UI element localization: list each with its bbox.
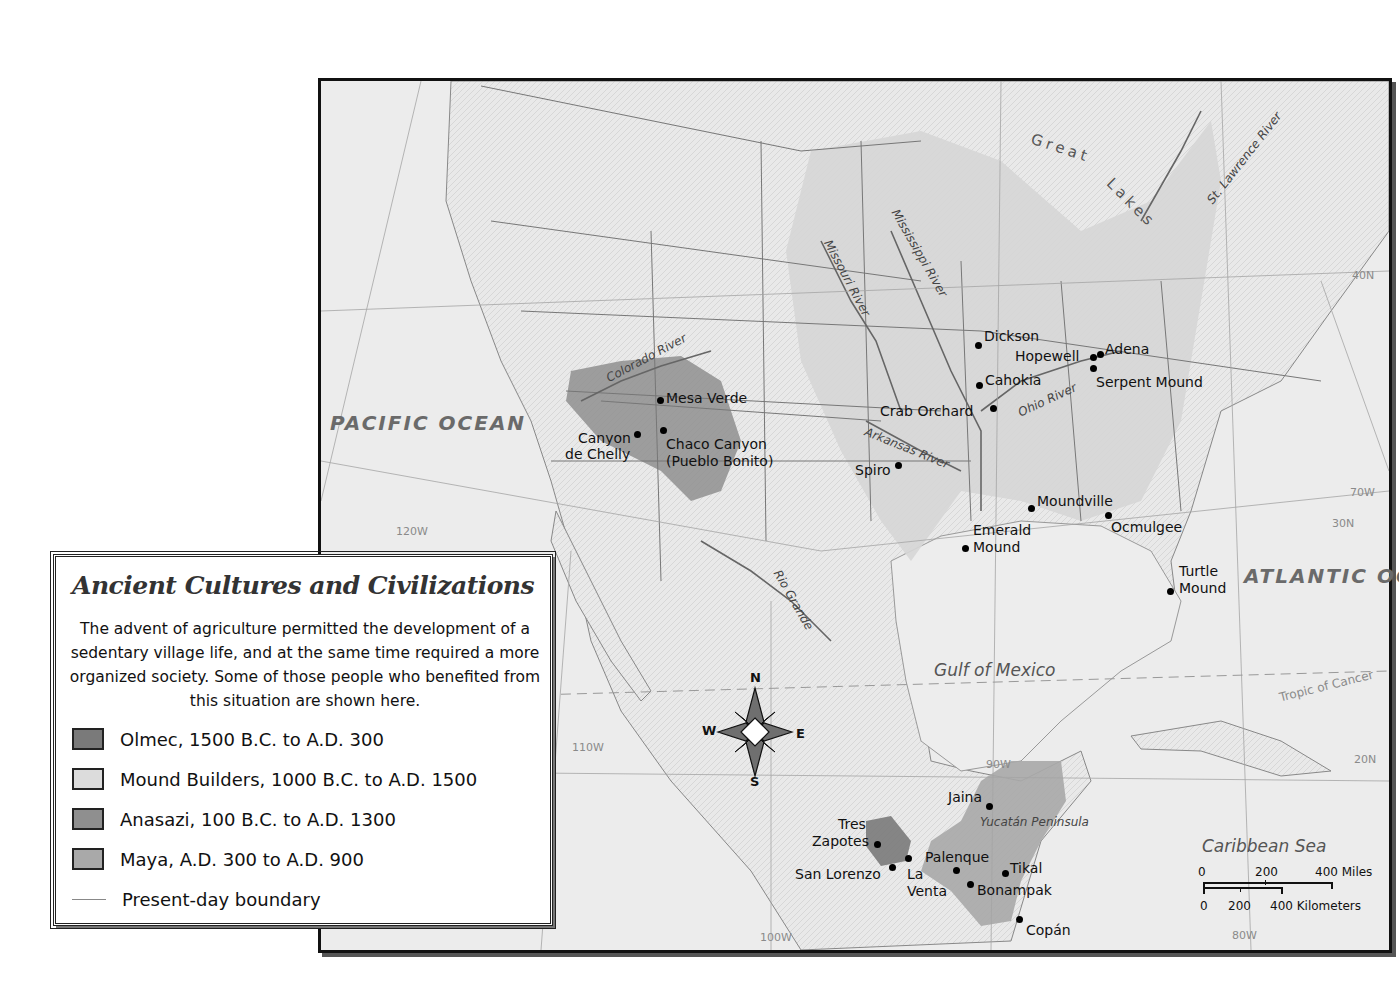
site-dot [874, 841, 881, 848]
legend-item-olmec: Olmec, 1500 B.C. to A.D. 300 [72, 727, 384, 751]
legend-label: Mound Builders, 1000 B.C. to A.D. 1500 [120, 769, 477, 790]
site-dot [1167, 588, 1174, 595]
site-dot [1097, 351, 1104, 358]
site-dot [1105, 512, 1112, 519]
site-adena: Adena [1105, 341, 1149, 357]
olmec-swatch [72, 728, 104, 750]
site-moundville: Moundville [1037, 493, 1113, 509]
pacific-ocean-label: PACIFIC OCEAN [330, 409, 424, 437]
site-canyon-de-chelly-2: de Chelly [565, 446, 630, 462]
site-cahokia: Cahokia [985, 372, 1041, 388]
compass-rose: N S W E [700, 670, 810, 790]
lon-120w-label: 120W [396, 524, 428, 540]
site-dot [967, 881, 974, 888]
site-dot [962, 545, 969, 552]
legend-item-maya: Maya, A.D. 300 to A.D. 900 [72, 847, 364, 871]
site-dot [660, 427, 667, 434]
site-emerald-mound-1: Emerald [973, 522, 1031, 538]
boundary-line-icon [72, 899, 106, 900]
site-dot [1090, 354, 1097, 361]
site-pueblo-bonito: (Pueblo Bonito) [666, 453, 773, 469]
lon-80w-label: 80W [1232, 928, 1257, 944]
scale-miles-0: 0 [1198, 864, 1206, 880]
site-dot [905, 855, 912, 862]
site-turtle-mound-2: Mound [1179, 580, 1226, 596]
site-tres-zapotes-1: Tres [838, 816, 866, 832]
caribbean-sea-label: Caribbean Sea [1202, 838, 1326, 854]
lon-90w-label: 90W [986, 757, 1011, 773]
site-dot [1090, 365, 1097, 372]
site-dot [634, 431, 641, 438]
lat-30n-label: 30N [1332, 516, 1354, 532]
map-legend: Ancient Cultures and Civilizations The a… [53, 554, 553, 926]
site-dot [889, 864, 896, 871]
site-ocmulgee: Ocmulgee [1111, 519, 1182, 535]
scale-miles-200: 200 [1255, 864, 1278, 880]
site-hopewell: Hopewell [1015, 348, 1079, 364]
site-dot [975, 342, 982, 349]
scale-km-200: 200 [1228, 898, 1251, 914]
site-dot [895, 462, 902, 469]
scale-tick [1265, 880, 1266, 885]
anasazi-swatch [72, 808, 104, 830]
site-dot [657, 397, 664, 404]
site-dot [990, 405, 997, 412]
legend-label: Present-day boundary [122, 889, 321, 910]
gulf-of-mexico-label: Gulf of Mexico [934, 662, 1056, 678]
legend-item-anasazi: Anasazi, 100 B.C. to A.D. 1300 [72, 807, 396, 831]
site-san-lorenzo: San Lorenzo [795, 866, 881, 882]
site-la-venta-2: Venta [907, 883, 947, 899]
legend-description: The advent of agriculture permitted the … [66, 617, 544, 713]
legend-title: Ancient Cultures and Civilizations [72, 571, 534, 600]
scale-miles-400: 400 Miles [1315, 864, 1372, 880]
scale-km-400: 400 Kilometers [1270, 898, 1361, 914]
site-chaco-canyon: Chaco Canyon [666, 436, 767, 452]
site-dot [986, 803, 993, 810]
scale-bar: 0 200 400 Miles 0 200 400 Kilometers [1198, 864, 1378, 914]
site-tikal: Tikal [1010, 860, 1042, 876]
legend-label: Anasazi, 100 B.C. to A.D. 1300 [120, 809, 396, 830]
site-mesa-verde: Mesa Verde [666, 390, 747, 406]
compass-west: W [702, 723, 716, 738]
compass-east: E [796, 726, 805, 741]
compass-star-icon [700, 670, 810, 790]
legend-label: Olmec, 1500 B.C. to A.D. 300 [120, 729, 384, 750]
scale-km-0: 0 [1200, 898, 1208, 914]
lat-40n-label: 40N [1352, 268, 1374, 284]
site-la-venta-1: La [907, 866, 923, 882]
legend-item-mound-builders: Mound Builders, 1000 B.C. to A.D. 1500 [72, 767, 477, 791]
site-copan: Copán [1026, 922, 1071, 938]
site-dickson: Dickson [984, 328, 1039, 344]
yucatan-peninsula-label: Yucatán Peninsula [980, 815, 1089, 830]
scale-tick [1240, 887, 1241, 892]
site-bonampak: Bonampak [977, 882, 1052, 898]
site-canyon-de-chelly-1: Canyon [578, 430, 631, 446]
site-spiro: Spiro [855, 462, 891, 478]
mound-builders-swatch [72, 768, 104, 790]
site-jaina: Jaina [948, 789, 982, 805]
lon-110w-label: 110W [572, 740, 604, 756]
compass-south: S [750, 774, 759, 789]
legend-label: Maya, A.D. 300 to A.D. 900 [120, 849, 364, 870]
site-tres-zapotes-2: Zapotes [812, 833, 869, 849]
site-dot [953, 867, 960, 874]
site-dot [1028, 505, 1035, 512]
compass-north: N [750, 670, 761, 685]
site-palenque: Palenque [925, 849, 989, 865]
site-dot [1016, 916, 1023, 923]
site-serpent-mound: Serpent Mound [1096, 374, 1203, 390]
legend-item-boundary: Present-day boundary [72, 887, 321, 911]
site-emerald-mound-2: Mound [973, 539, 1020, 555]
atlantic-ocean-label: ATLANTIC OCEAN [1244, 562, 1370, 590]
lon-70w-label: 70W [1350, 485, 1375, 501]
lat-20n-label: 20N [1354, 752, 1376, 768]
maya-swatch [72, 848, 104, 870]
site-dot [1002, 870, 1009, 877]
site-crab-orchard: Crab Orchard [880, 403, 973, 419]
site-turtle-mound-1: Turtle [1179, 563, 1218, 579]
lon-100w-label: 100W [760, 930, 792, 946]
site-dot [976, 382, 983, 389]
scale-km-bar [1203, 887, 1283, 894]
